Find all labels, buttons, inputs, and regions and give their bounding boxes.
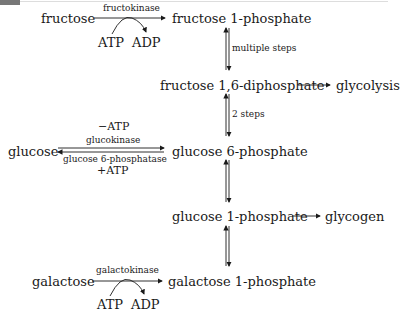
atp-adp-curve-fructose (112, 17, 146, 34)
atp-adp-curve-galactose (110, 279, 144, 296)
